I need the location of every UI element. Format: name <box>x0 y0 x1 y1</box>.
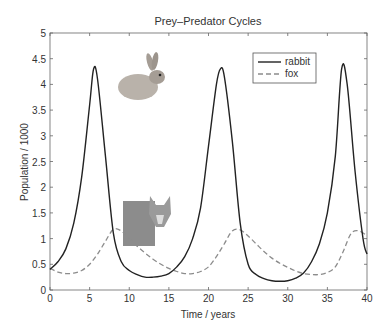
y-tick-label: 1 <box>40 234 46 245</box>
x-tick-label: 20 <box>203 293 215 304</box>
x-tick-label: 30 <box>282 293 294 304</box>
prey-predator-chart: Prey–Predator Cycles 051015202530354000.… <box>0 0 382 335</box>
x-tick-label: 0 <box>47 293 53 304</box>
chart-title: Prey–Predator Cycles <box>155 15 262 27</box>
x-tick-label: 35 <box>322 293 334 304</box>
fox-image <box>123 196 171 246</box>
x-tick-label: 40 <box>361 293 373 304</box>
x-axis-label: Time / years <box>181 309 236 320</box>
legend-fox: fox <box>285 68 298 79</box>
x-tick-label: 10 <box>124 293 136 304</box>
x-tick-label: 25 <box>243 293 255 304</box>
rabbit-series-line <box>50 64 367 281</box>
y-tick-label: 0 <box>40 285 46 296</box>
y-tick-label: 4.5 <box>32 54 46 65</box>
x-tick-label: 5 <box>87 293 93 304</box>
y-tick-label: 3.5 <box>32 105 46 116</box>
y-axis-label: Population / 1000 <box>19 123 30 201</box>
x-tick-label: 15 <box>163 293 175 304</box>
legend-rabbit: rabbit <box>285 56 310 67</box>
fox-series-line <box>50 229 367 275</box>
legend: rabbit fox <box>253 53 316 83</box>
y-tick-label: 4 <box>40 79 46 90</box>
y-tick-label: 2.5 <box>32 157 46 168</box>
y-tick-label: 1.5 <box>32 208 46 219</box>
y-tick-label: 3 <box>40 131 46 142</box>
y-tick-label: 0.5 <box>32 259 46 270</box>
y-tick-label: 2 <box>40 182 46 193</box>
rabbit-image <box>118 52 165 100</box>
y-tick-label: 5 <box>40 28 46 39</box>
